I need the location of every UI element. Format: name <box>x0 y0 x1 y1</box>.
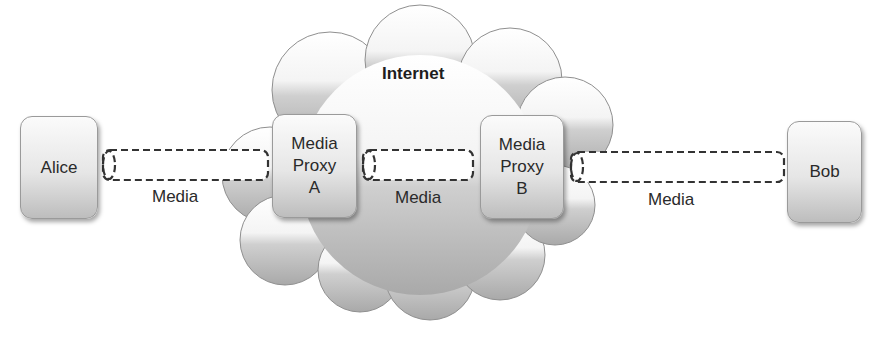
internet-label: Internet <box>382 64 444 84</box>
bob-node: Bob <box>787 121 862 223</box>
media-proxy-a-node: Media Proxy A <box>272 114 357 218</box>
proxy-b-line2: Proxy <box>500 156 543 178</box>
media-link-label-1: Media <box>152 187 198 207</box>
proxy-b-line3: B <box>516 178 527 200</box>
alice-label: Alice <box>41 157 78 179</box>
proxy-a-line1: Media <box>291 133 337 155</box>
bob-label: Bob <box>809 161 839 183</box>
media-tunnels <box>103 150 784 182</box>
proxy-a-line3: A <box>309 177 320 199</box>
proxy-a-line2: Proxy <box>293 155 336 177</box>
media-link-label-2: Media <box>395 188 441 208</box>
diagram-canvas <box>0 0 878 355</box>
alice-node: Alice <box>20 116 98 219</box>
media-link-label-3: Media <box>648 190 694 210</box>
proxy-b-line1: Media <box>499 134 545 156</box>
media-proxy-b-node: Media Proxy B <box>480 115 564 219</box>
